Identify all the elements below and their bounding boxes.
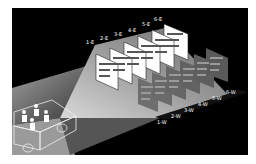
diagram-canvas: 1-E 2-E 3-E 4-E 5-E 6-E 1-W 2-W 3-W 4-W … <box>0 0 256 164</box>
label-3-w: 3-W <box>184 107 194 113</box>
label-4-w: 4-W <box>198 101 208 107</box>
label-5-w: 5-W <box>212 95 222 101</box>
label-1-w: 1-W <box>157 119 167 125</box>
label-6-e: 6-E <box>154 16 162 22</box>
label-3-e: 3-E <box>114 31 122 37</box>
label-5-e: 5-E <box>142 21 150 27</box>
label-1-e: 1-E <box>86 39 94 45</box>
label-6-w: 6-W <box>226 89 236 95</box>
label-2-w: 2-W <box>171 113 181 119</box>
label-2-e: 2-E <box>100 35 108 41</box>
label-4-e: 4-E <box>128 27 136 33</box>
